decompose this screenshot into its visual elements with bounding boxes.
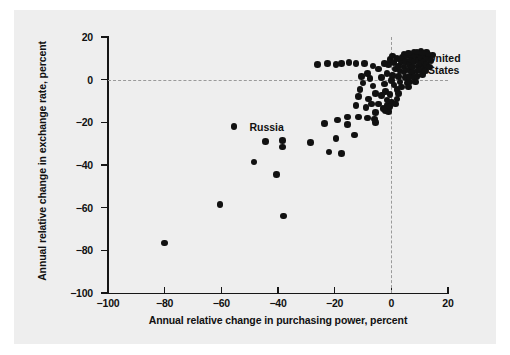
x-tick-label: −100 (84, 297, 132, 309)
scatter-point (353, 102, 360, 109)
x-tick-label: −20 (311, 297, 359, 309)
scatter-point (394, 55, 401, 62)
x-axis-title: Annual relative change in purchasing pow… (108, 314, 448, 326)
x-tick (277, 287, 278, 294)
y-tick-label: 20 (53, 31, 93, 43)
scatter-point (405, 50, 412, 57)
x-tick-label: −80 (141, 297, 189, 309)
scatter-point (273, 171, 280, 178)
annotation-label: United States (428, 52, 461, 76)
y-axis-title: Annual relative change in exchange rate,… (36, 31, 48, 291)
scatter-point (217, 201, 224, 208)
scatter-point (161, 240, 168, 247)
y-tick-label: −80 (53, 244, 93, 256)
y-tick-label: 0 (53, 74, 93, 86)
scatter-point (381, 81, 388, 88)
annotation-label: Russia (249, 121, 283, 133)
scatter-point (314, 61, 321, 68)
scatter-point (419, 50, 426, 57)
y-tick (101, 164, 108, 165)
scatter-point (346, 59, 353, 66)
y-tick (101, 250, 108, 251)
x-tick (221, 287, 222, 294)
y-tick (101, 122, 108, 123)
y-tick-label: −60 (53, 202, 93, 214)
scatter-point (338, 150, 345, 157)
figure-container: −100−80−60−40−20020 −100−80−60−40−20020 … (0, 0, 510, 355)
scatter-point (338, 60, 345, 67)
scatter-point (333, 135, 340, 142)
scatter-point (375, 66, 382, 73)
x-tick-label: 20 (424, 297, 472, 309)
x-tick (447, 287, 448, 294)
x-tick-label: −40 (254, 297, 302, 309)
scatter-point (364, 115, 371, 122)
y-tick-label: −40 (53, 159, 93, 171)
y-tick (101, 207, 108, 208)
scatter-point (262, 138, 269, 145)
scatter-point (395, 73, 402, 80)
scatter-point (321, 120, 328, 127)
y-tick (101, 79, 108, 80)
scatter-point (344, 121, 351, 128)
scatter-point (372, 109, 379, 116)
scatter-point (344, 114, 351, 121)
x-tick-label: −60 (197, 297, 245, 309)
y-tick (101, 36, 108, 37)
scatter-point (355, 93, 362, 100)
scatter-point (381, 60, 388, 67)
scatter-point (372, 119, 379, 126)
scatter-point (353, 60, 360, 67)
scatter-point (279, 137, 286, 144)
scatter-point (307, 139, 314, 146)
scatter-point (380, 105, 387, 112)
scatter-point (357, 86, 364, 93)
x-tick-label: 0 (367, 297, 415, 309)
scatter-point (324, 60, 331, 67)
scatter-point (361, 60, 368, 67)
x-tick (164, 287, 165, 294)
x-tick (334, 287, 335, 294)
y-tick-label: −20 (53, 116, 93, 128)
x-tick (107, 287, 108, 294)
scatter-point (279, 144, 286, 151)
